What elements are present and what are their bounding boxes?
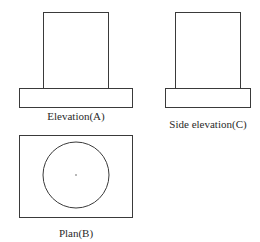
plan-outline	[20, 136, 133, 218]
elevation-column	[44, 13, 109, 89]
plan-view	[20, 136, 133, 218]
side-elevation-label: Side elevation(C)	[169, 119, 246, 130]
side-elevation-column	[176, 13, 241, 89]
side-elevation-view	[166, 13, 251, 108]
elevation-label: Elevation(A)	[47, 111, 104, 122]
side-elevation-base	[166, 89, 251, 108]
plan-label: Plan(B)	[59, 228, 93, 239]
plan-center-point	[75, 174, 76, 175]
elevation-view	[20, 13, 133, 108]
elevation-base	[20, 89, 133, 108]
